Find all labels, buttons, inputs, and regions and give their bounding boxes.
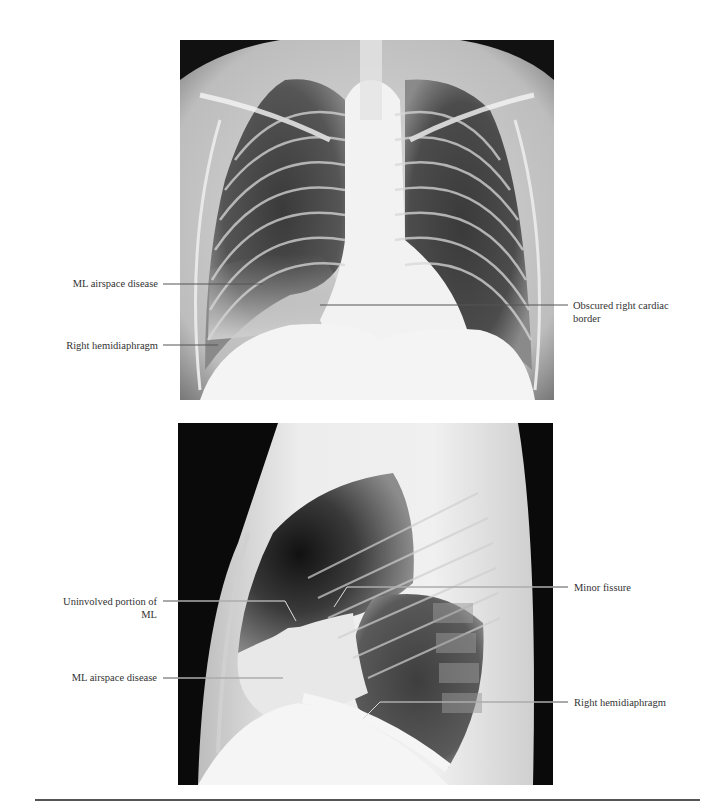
label-lat-uninvolved-portion-ml: Uninvolved portion of ML bbox=[20, 595, 157, 621]
label-lat-right-hemidiaphragm: Right hemidiaphragm bbox=[574, 696, 666, 709]
label-lat-ml-airspace-disease: ML airspace disease bbox=[40, 671, 157, 684]
label-line-1: Uninvolved portion of bbox=[20, 595, 157, 608]
lateral-xray-image bbox=[178, 423, 553, 785]
pa-chest-xray bbox=[180, 40, 554, 400]
label-lat-minor-fissure: Minor fissure bbox=[574, 581, 631, 594]
label-line-1: Obscured right cardiac bbox=[573, 299, 669, 312]
page-bottom-rule bbox=[35, 799, 700, 801]
pa-xray-image bbox=[180, 40, 554, 400]
label-pa-ml-airspace-disease: ML airspace disease bbox=[58, 277, 158, 290]
lateral-chest-xray bbox=[178, 423, 553, 785]
label-pa-right-hemidiaphragm: Right hemidiaphragm bbox=[45, 339, 158, 352]
label-line-2: border bbox=[573, 312, 669, 325]
label-pa-obscured-cardiac-border: Obscured right cardiac border bbox=[573, 299, 669, 325]
label-line-2: ML bbox=[20, 608, 157, 621]
